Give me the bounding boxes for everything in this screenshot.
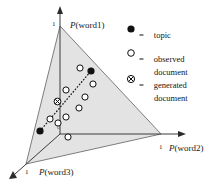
legend-label-generated-line1: generated [154, 80, 187, 90]
figure-canvas: P(word1) 1 P(word2) 1 P(word3) 1 0 = top… [0, 0, 212, 188]
legend-item-generated-document: = generated document [139, 75, 188, 103]
observed-document-point [82, 94, 88, 100]
axis-origin-label: 0 [57, 124, 60, 130]
legend-item-observed-document: = observed document [139, 49, 188, 77]
topic-point [36, 127, 43, 134]
generated-document-point [54, 98, 61, 105]
axis-label-word3: P(word3) [39, 168, 74, 177]
axis-label-word2: P(word2) [169, 144, 204, 153]
observed-document-point [77, 65, 83, 71]
legend-open-circle-icon [128, 50, 135, 57]
observed-document-point [76, 105, 82, 111]
axis-word1-arrowhead [57, 6, 63, 14]
axis-tick-word1: 1 [52, 21, 56, 28]
legend-filled-circle-icon [127, 25, 134, 32]
axis-word3-arrowhead [9, 171, 17, 179]
legend-equals-sign: = [139, 80, 144, 90]
observed-document-point [65, 134, 71, 140]
observed-document-point [90, 81, 96, 87]
legend-markers [127, 25, 134, 82]
axis-label-word1: P(word1) [70, 21, 105, 30]
observed-document-point [63, 114, 69, 120]
legend-equals-sign: = [139, 54, 144, 64]
legend-label-generated-line2: document [154, 94, 188, 103]
topic-point [87, 67, 94, 74]
axis-tick-word3: 1 [25, 169, 29, 176]
axis-word2-arrowhead [178, 131, 186, 137]
axis-tick-word2: 1 [159, 144, 163, 151]
observed-document-point [47, 116, 53, 122]
legend-label-topic: topic [154, 30, 171, 40]
legend-item-topic: = topic [139, 25, 171, 41]
legend-label-observed-line1: observed [154, 54, 185, 64]
legend-equals-sign: = [139, 30, 144, 40]
observed-document-point [63, 87, 69, 93]
legend-crossed-circle-icon [127, 75, 134, 82]
